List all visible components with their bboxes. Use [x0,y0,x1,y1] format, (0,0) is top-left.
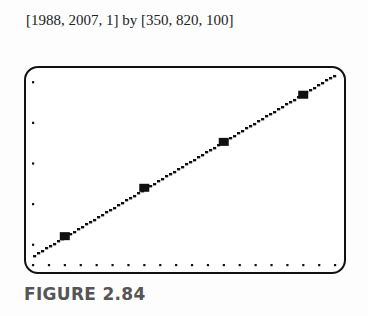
x-tick [96,264,98,266]
regression-line-segment [89,221,92,223]
regression-line-segment [165,175,168,177]
data-point-marker [219,138,229,146]
regression-line-segment [229,137,232,139]
y-tick [32,81,34,83]
regression-line-segment [153,183,156,185]
regression-line-segment [281,106,284,108]
figure-label: FIGURE 2.84 [24,284,146,304]
regression-line-segment [253,123,256,125]
plot-area [0,0,368,316]
x-tick [175,264,177,266]
regression-line-segment [265,115,268,117]
regression-line-segment [289,101,292,103]
y-tick [32,244,34,246]
regression-line-segment [37,252,40,254]
regression-line-segment [133,195,136,197]
regression-line-segment [193,159,196,161]
y-tick [32,122,34,124]
regression-line-segment [249,125,252,127]
regression-line-segment [237,132,240,134]
x-tick [32,264,34,266]
regression-line-segment [109,209,112,211]
x-tick [80,264,82,266]
regression-line-segment [97,216,100,218]
regression-line-segment [101,214,104,216]
regression-line-segment [121,202,124,204]
regression-line-segment [137,192,140,194]
regression-line-segment [117,204,120,206]
x-tick [334,264,336,266]
regression-line-segment [81,226,84,228]
x-tick [255,264,257,266]
regression-line-segment [33,255,36,257]
regression-line-segment [201,154,204,156]
regression-line-segment [209,149,212,151]
regression-line-segment [77,228,80,230]
x-tick [111,264,113,266]
regression-line-segment [105,211,108,213]
regression-line-segment [85,223,88,225]
regression-line-segment [157,180,160,182]
regression-line-segment [333,75,336,77]
y-tick [32,162,34,164]
x-tick [223,264,225,266]
regression-line-segment [49,245,52,247]
regression-line-segment [129,197,132,199]
regression-line-segment [161,178,164,180]
regression-line-segment [53,243,56,245]
regression-line-segment [73,231,76,233]
regression-line-segment [309,89,312,91]
x-tick [64,264,66,266]
y-tick [32,203,34,205]
x-tick [270,264,272,266]
regression-line-segment [185,163,188,165]
regression-line-segment [197,156,200,158]
regression-line-segment [113,207,116,209]
x-tick [286,264,288,266]
regression-line-segment [273,111,276,113]
x-tick [302,264,304,266]
regression-line-segment [241,130,244,132]
x-tick [207,264,209,266]
regression-line-segment [45,247,48,249]
x-tick [191,264,193,266]
regression-line-segment [205,151,208,153]
regression-line-segment [149,185,152,187]
regression-line-segment [317,84,320,86]
regression-line-segment [285,103,288,105]
x-tick [239,264,241,266]
regression-line-segment [277,108,280,110]
regression-line-segment [173,171,176,173]
regression-line-segment [321,82,324,84]
x-tick [127,264,129,266]
data-point-marker [298,91,308,99]
x-tick [48,264,50,266]
regression-line-segment [261,118,264,120]
regression-line-segment [233,135,236,137]
regression-line-segment [269,113,272,115]
x-tick [159,264,161,266]
regression-line-segment [325,79,328,81]
regression-line-segment [213,147,216,149]
regression-line-segment [125,199,128,201]
regression-line-segment [169,173,172,175]
regression-line-segment [329,77,332,79]
regression-line-segment [245,127,248,129]
regression-line-segment [257,120,260,122]
data-point-marker [139,184,149,192]
regression-line-segment [177,168,180,170]
regression-line-segment [181,166,184,168]
data-point-marker [60,232,70,240]
regression-line-segment [57,240,60,242]
regression-line-segment [93,219,96,221]
x-tick [143,264,145,266]
regression-line-segment [313,87,316,89]
regression-line-segment [41,250,44,252]
regression-line-segment [189,161,192,163]
regression-line-segment [293,99,296,101]
x-tick [318,264,320,266]
